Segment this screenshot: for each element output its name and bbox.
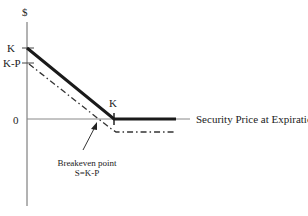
breakeven-label: Breakeven point S=K-P [52,158,122,178]
y-tick-label-k: K [7,42,15,54]
payoff-line [27,48,176,119]
y-tick-label-k-minus-p: K-P [3,57,21,69]
y-tick-label-zero: 0 [13,114,19,126]
put-payoff-diagram: $ K K-P 0 K Security Price at Expiration… [0,0,308,216]
breakeven-label-line1: Breakeven point [52,158,122,168]
profit-line [29,64,176,132]
x-tick-label-strike: K [109,97,117,109]
diagram-graphics [0,0,308,216]
arrow-head-icon [91,122,97,130]
breakeven-label-line2: S=K-P [52,168,122,178]
y-axis-label: $ [22,6,28,18]
x-axis-label: Security Price at Expiration [196,113,308,125]
